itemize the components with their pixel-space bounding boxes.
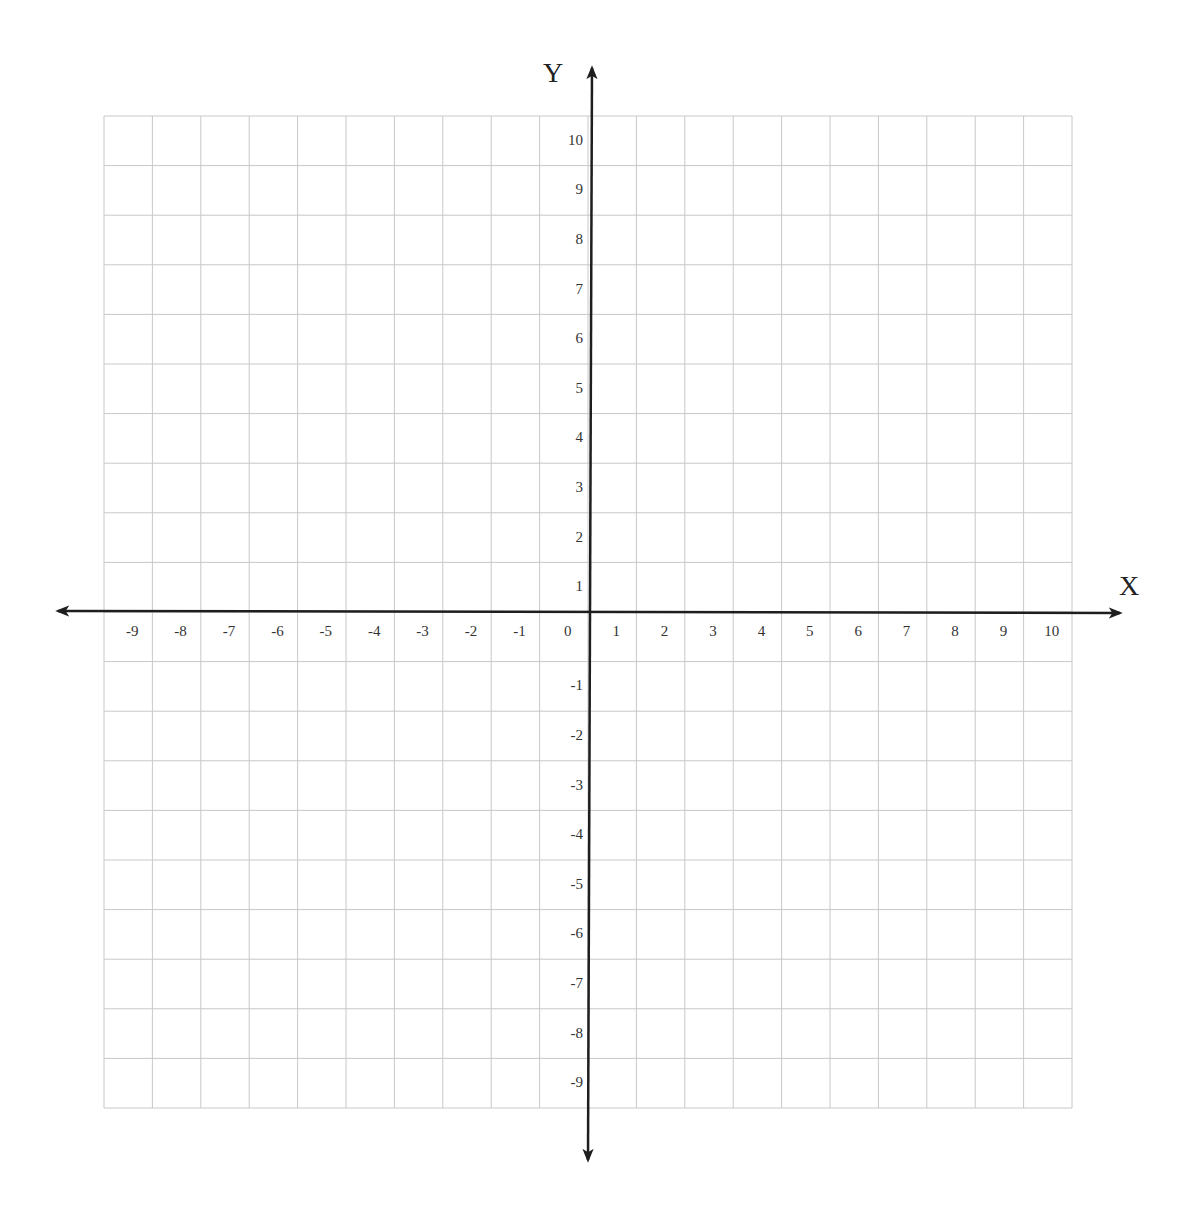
x-tick-label: 7 xyxy=(903,623,911,639)
y-tick-label: 2 xyxy=(576,529,584,545)
y-tick-label: 5 xyxy=(576,380,584,396)
x-tick-labels: -9-8-7-6-5-4-3-2-1012345678910 xyxy=(126,623,1059,639)
y-tick-label: 8 xyxy=(576,231,584,247)
y-tick-label: -3 xyxy=(571,777,584,793)
y-tick-label: 3 xyxy=(576,479,584,495)
coordinate-plane: -9-8-7-6-5-4-3-2-1012345678910 109876543… xyxy=(0,0,1191,1219)
y-tick-label: -6 xyxy=(571,925,584,941)
y-tick-label: 9 xyxy=(576,181,584,197)
y-tick-label: -4 xyxy=(571,826,584,842)
x-tick-label: -9 xyxy=(126,623,139,639)
y-tick-label: -2 xyxy=(571,727,584,743)
y-tick-label: -9 xyxy=(571,1074,584,1090)
y-tick-label: 10 xyxy=(568,132,583,148)
y-tick-label: 7 xyxy=(576,281,584,297)
y-tick-label: -8 xyxy=(571,1025,584,1041)
x-tick-label: 8 xyxy=(951,623,959,639)
y-axis xyxy=(588,68,592,1160)
x-tick-label: -7 xyxy=(223,623,236,639)
x-tick-label: -2 xyxy=(465,623,478,639)
x-tick-label: 4 xyxy=(758,623,766,639)
y-tick-label: -1 xyxy=(571,677,584,693)
x-tick-label: 1 xyxy=(612,623,620,639)
x-tick-label: -8 xyxy=(174,623,187,639)
x-tick-label: -3 xyxy=(416,623,429,639)
y-tick-label: 1 xyxy=(576,578,584,594)
x-tick-label: -1 xyxy=(513,623,526,639)
x-tick-label: 0 xyxy=(564,623,572,639)
x-axis-label: X xyxy=(1119,570,1139,601)
axes xyxy=(58,68,1120,1160)
y-tick-label: 4 xyxy=(576,429,584,445)
x-tick-label: 5 xyxy=(806,623,814,639)
x-tick-label: -5 xyxy=(320,623,333,639)
x-tick-label: 9 xyxy=(1000,623,1008,639)
y-tick-label: -7 xyxy=(571,975,584,991)
y-tick-label: -5 xyxy=(571,876,584,892)
x-tick-label: 10 xyxy=(1044,623,1059,639)
x-tick-label: 2 xyxy=(661,623,669,639)
y-tick-label: 6 xyxy=(576,330,584,346)
x-tick-label: -4 xyxy=(368,623,381,639)
y-axis-label: Y xyxy=(543,57,563,88)
x-tick-label: -6 xyxy=(271,623,284,639)
x-tick-label: 3 xyxy=(709,623,717,639)
x-tick-label: 6 xyxy=(854,623,862,639)
